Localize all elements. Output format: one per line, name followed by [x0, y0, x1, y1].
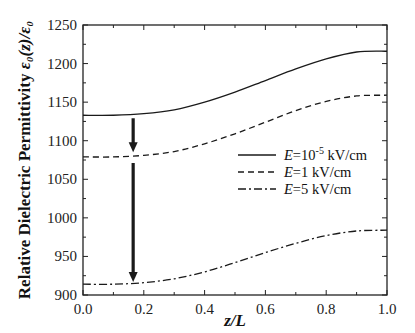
arrow-head-icon — [129, 142, 138, 152]
y-tick-label: 1100 — [48, 133, 77, 149]
y-axis-title: Relative Dielectric Permittivity ε₀(z)/ε… — [15, 21, 34, 299]
x-tick-label: 0.0 — [74, 301, 93, 317]
y-tick-label: 900 — [55, 287, 78, 303]
x-tick-label: 1.0 — [378, 301, 397, 317]
y-tick-label: 1000 — [47, 210, 77, 226]
y-tick-label: 1250 — [47, 17, 77, 33]
legend-label: E=5 kV/cm — [283, 181, 352, 197]
x-tick-label: 0.4 — [195, 301, 214, 317]
series-line-solid — [83, 51, 387, 115]
y-tick-label: 950 — [55, 248, 78, 264]
legend-label: E=1 kV/cm — [283, 164, 352, 180]
y-tick-label: 1150 — [48, 94, 77, 110]
y-axis-title-math: ε₀(z)/ε₀ — [15, 21, 34, 70]
legend-label: E=10-5 kV/cm — [283, 145, 368, 163]
y-tick-label: 1200 — [47, 56, 77, 72]
x-tick-label: 0.8 — [317, 301, 336, 317]
arrow-head-icon — [129, 272, 138, 282]
x-tick-label: 0.6 — [256, 301, 275, 317]
chart: 0.00.20.40.60.81.0 900950100010501100115… — [0, 0, 415, 333]
y-tick-label: 1050 — [47, 171, 77, 187]
x-axis-title: z/L — [223, 311, 246, 330]
y-axis-title-text: Relative Dielectric Permittivity — [15, 69, 34, 299]
annotation-arrows — [129, 118, 138, 282]
x-tick-label: 0.2 — [134, 301, 153, 317]
series-line-dash-dot — [83, 230, 387, 284]
legend: E=10-5 kV/cmE=1 kV/cmE=5 kV/cm — [238, 145, 368, 197]
